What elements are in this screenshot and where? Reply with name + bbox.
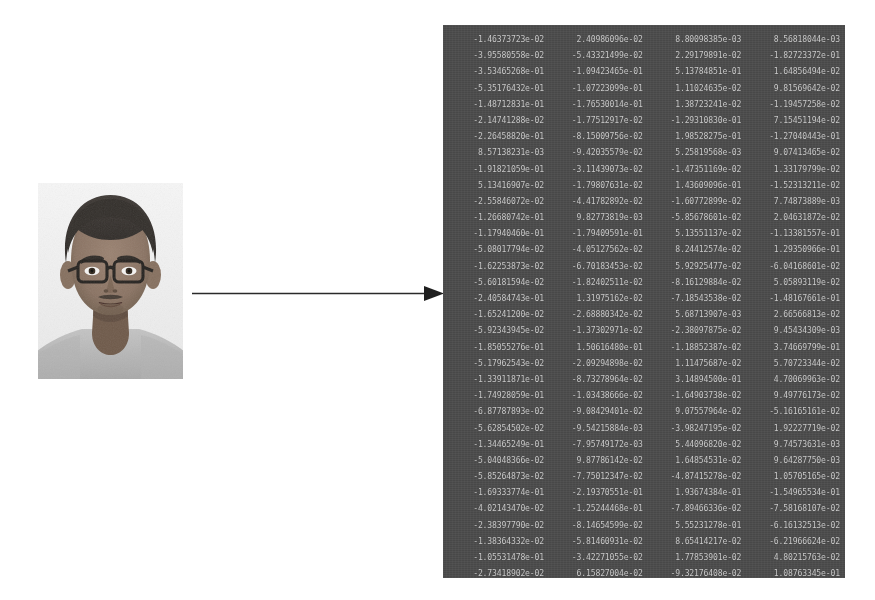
matrix-cell: -1.52313211e-02: [744, 177, 840, 193]
matrix-cell: 5.13784851e-01: [645, 63, 741, 79]
matrix-row: -5.17962543e-02-2.09294898e-021.11475687…: [448, 355, 840, 371]
matrix-row: -2.14741288e-02-1.77512917e-02-1.2931083…: [448, 112, 840, 128]
matrix-row: -1.65241200e-02-2.68880342e-025.68713907…: [448, 306, 840, 322]
matrix-cell: -4.02143470e-02: [448, 500, 544, 516]
matrix-row: -1.33911871e-01-8.73278964e-023.14894500…: [448, 371, 840, 387]
matrix-row: -1.34465249e-01-7.95749172e-035.44096820…: [448, 436, 840, 452]
matrix-cell: -9.32176408e-02: [645, 565, 741, 578]
matrix-cell: -1.33911871e-01: [448, 371, 544, 387]
matrix-cell: 1.38723241e-02: [645, 96, 741, 112]
matrix-cell: -5.81460931e-02: [547, 533, 643, 549]
matrix-cell: -1.38364332e-02: [448, 533, 544, 549]
matrix-cell: -5.35176432e-01: [448, 80, 544, 96]
matrix-row: 8.57138231e-03-9.42035579e-025.25819568e…: [448, 144, 840, 160]
matrix-cell: -9.08429401e-02: [547, 403, 643, 419]
matrix-cell: 5.13416907e-02: [448, 177, 544, 193]
matrix-cell: 9.74573631e-03: [744, 436, 840, 452]
matrix-cell: 7.74873889e-03: [744, 193, 840, 209]
matrix-cell: 5.44096820e-02: [645, 436, 741, 452]
matrix-rows: -1.46373723e-022.40986096e-028.80098385e…: [448, 31, 840, 578]
matrix-row: -1.85055276e-011.50616480e-01-1.18852387…: [448, 339, 840, 355]
matrix-cell: 5.55231278e-01: [645, 517, 741, 533]
matrix-row: -1.46373723e-022.40986096e-028.80098385e…: [448, 31, 840, 47]
matrix-cell: -1.13381557e-01: [744, 225, 840, 241]
matrix-cell: 9.49776173e-02: [744, 387, 840, 403]
matrix-row: -2.73418902e-026.15827004e-02-9.32176408…: [448, 565, 840, 578]
matrix-row: -5.92343945e-02-1.37302971e-02-2.3809787…: [448, 322, 840, 338]
matrix-cell: 9.81569642e-02: [744, 80, 840, 96]
matrix-cell: -1.79409591e-01: [547, 225, 643, 241]
matrix-cell: 5.13551137e-02: [645, 225, 741, 241]
matrix-row: -5.08017794e-02-4.05127562e-028.24412574…: [448, 241, 840, 257]
matrix-cell: 5.68713907e-03: [645, 306, 741, 322]
matrix-cell: -1.07223099e-01: [547, 80, 643, 96]
matrix-cell: -1.60772899e-02: [645, 193, 741, 209]
matrix-cell: 2.29179891e-02: [645, 47, 741, 63]
matrix-cell: -8.16129884e-02: [645, 274, 741, 290]
flow-arrow-graphic: [190, 278, 448, 310]
matrix-cell: 8.65414217e-02: [645, 533, 741, 549]
matrix-cell: -1.29310830e-01: [645, 112, 741, 128]
matrix-cell: -1.19457258e-02: [744, 96, 840, 112]
matrix-row: -6.87787893e-02-9.08429401e-029.07557964…: [448, 403, 840, 419]
matrix-cell: 1.77853901e-02: [645, 549, 741, 565]
matrix-row: -1.38364332e-02-5.81460931e-028.65414217…: [448, 533, 840, 549]
matrix-cell: 9.07413465e-02: [744, 144, 840, 160]
matrix-cell: 1.93674384e-01: [645, 484, 741, 500]
feature-matrix-block: -1.46373723e-022.40986096e-028.80098385e…: [443, 25, 845, 578]
matrix-cell: -5.92343945e-02: [448, 322, 544, 338]
matrix-row: -1.17940460e-01-1.79409591e-015.13551137…: [448, 225, 840, 241]
matrix-cell: 9.82773819e-03: [547, 209, 643, 225]
portrait-photo-graphic: [38, 183, 183, 379]
matrix-cell: 8.80098385e-03: [645, 31, 741, 47]
matrix-row: -1.69333774e-01-2.19370551e-011.93674384…: [448, 484, 840, 500]
matrix-cell: -1.34465249e-01: [448, 436, 544, 452]
matrix-cell: 3.74669799e-01: [744, 339, 840, 355]
matrix-cell: -2.19370551e-01: [547, 484, 643, 500]
matrix-cell: -7.75012347e-02: [547, 468, 643, 484]
matrix-row: 5.13416907e-02-1.79807631e-021.43609096e…: [448, 177, 840, 193]
matrix-cell: -1.91821059e-01: [448, 161, 544, 177]
matrix-cell: -1.27040443e-01: [744, 128, 840, 144]
matrix-row: -5.35176432e-01-1.07223099e-011.11024635…: [448, 80, 840, 96]
matrix-cell: 1.50616480e-01: [547, 339, 643, 355]
matrix-cell: -7.18543538e-02: [645, 290, 741, 306]
matrix-cell: 1.64854531e-02: [645, 452, 741, 468]
matrix-cell: 5.25819568e-03: [645, 144, 741, 160]
matrix-cell: 1.29350966e-01: [744, 241, 840, 257]
matrix-row: -5.62854502e-02-9.54215884e-03-3.9824719…: [448, 420, 840, 436]
matrix-cell: -1.82723372e-01: [744, 47, 840, 63]
matrix-cell: -5.60181594e-02: [448, 274, 544, 290]
matrix-cell: 7.15451194e-02: [744, 112, 840, 128]
matrix-cell: 5.05893119e-02: [744, 274, 840, 290]
matrix-cell: -8.73278964e-02: [547, 371, 643, 387]
matrix-cell: 1.43609096e-01: [645, 177, 741, 193]
matrix-cell: -5.85678601e-02: [645, 209, 741, 225]
matrix-cell: -1.03438666e-02: [547, 387, 643, 403]
flow-arrow: [190, 278, 448, 310]
matrix-cell: -8.14654599e-02: [547, 517, 643, 533]
matrix-cell: 5.92925477e-02: [645, 258, 741, 274]
matrix-cell: -2.38097875e-02: [645, 322, 741, 338]
matrix-cell: -2.55846072e-02: [448, 193, 544, 209]
matrix-row: -5.60181594e-02-1.82402511e-02-8.1612988…: [448, 274, 840, 290]
matrix-cell: 5.70723344e-02: [744, 355, 840, 371]
matrix-cell: 8.57138231e-03: [448, 144, 544, 160]
matrix-cell: -7.95749172e-03: [547, 436, 643, 452]
matrix-cell: -1.47351169e-02: [645, 161, 741, 177]
matrix-cell: -1.48712831e-01: [448, 96, 544, 112]
matrix-row: -3.53465268e-01-1.09423465e-015.13784851…: [448, 63, 840, 79]
matrix-cell: -1.54965534e-01: [744, 484, 840, 500]
matrix-cell: -4.87415278e-02: [645, 468, 741, 484]
matrix-cell: -5.04048366e-02: [448, 452, 544, 468]
portrait-photo: [38, 183, 183, 379]
matrix-row: -4.02143470e-02-1.25244468e-01-7.8946633…: [448, 500, 840, 516]
matrix-cell: -1.65241200e-02: [448, 306, 544, 322]
matrix-cell: -5.85264873e-02: [448, 468, 544, 484]
matrix-cell: -1.64903738e-02: [645, 387, 741, 403]
matrix-cell: -2.73418902e-02: [448, 565, 544, 578]
matrix-row: -1.74928059e-01-1.03438666e-02-1.6490373…: [448, 387, 840, 403]
matrix-cell: -4.05127562e-02: [547, 241, 643, 257]
matrix-cell: 1.05705165e-02: [744, 468, 840, 484]
matrix-cell: -6.04168601e-02: [744, 258, 840, 274]
